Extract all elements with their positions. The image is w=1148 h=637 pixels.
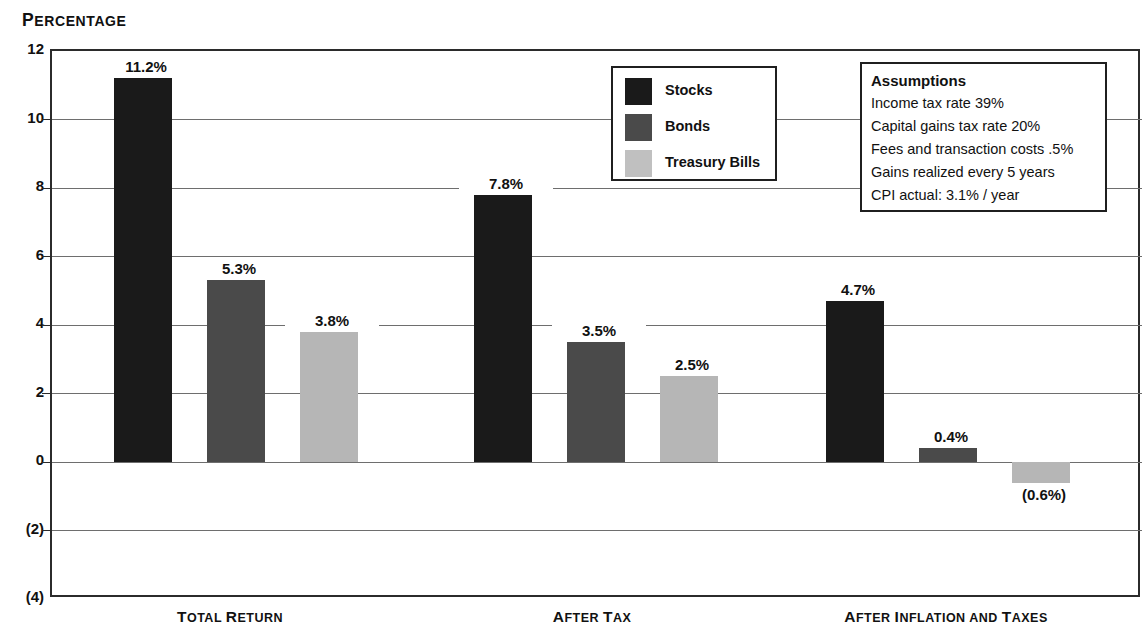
legend-label: Bonds [665,118,710,134]
bar-treasury-bills-3 [1012,462,1070,483]
y-axis-tick [42,393,51,394]
bar-value-label: (0.6%) [997,486,1091,503]
bar-stocks-3 [826,301,884,462]
assumptions-lines: Income tax rate 39%Capital gains tax rat… [871,92,1105,207]
legend-label: Treasury Bills [665,154,760,170]
gridline [52,530,1142,531]
category-label-3: AFTER INFLATION AND TAXES [746,608,1146,626]
chart-axis-title: PERCENTAGE [22,10,127,31]
bar-value-label: 5.3% [192,260,286,277]
axis-title-initial: P [22,10,34,30]
y-axis-tick-label: (4) [0,588,44,605]
y-axis-tick-label: 4 [0,314,44,331]
bar-value-label: 7.8% [459,175,553,192]
assumption-line-4: Gains realized every 5 years [871,161,1105,184]
bar-value-label: 11.2% [99,58,193,75]
axis-title-rest: ERCENTAGE [34,13,126,29]
y-axis-tick-label: 0 [0,451,44,468]
bar-bonds-1 [207,280,265,462]
bar-value-label: 3.5% [552,322,646,339]
legend-swatch-icon [625,150,652,177]
chart-legend: StocksBondsTreasury Bills [611,66,777,181]
assumption-line-2: Capital gains tax rate 20% [871,115,1105,138]
assumptions-box: Assumptions Income tax rate 39%Capital g… [860,62,1107,212]
bar-value-label: 2.5% [645,356,739,373]
bar-value-label: 3.8% [285,312,379,329]
y-axis-tick [42,325,51,326]
bar-bonds-2 [567,342,625,462]
legend-label: Stocks [665,82,713,98]
y-axis-tick-label: 10 [0,109,44,126]
y-axis-tick [42,119,51,120]
bar-value-label: 0.4% [904,428,998,445]
bar-treasury-bills-1 [300,332,358,462]
bar-stocks-2 [474,195,532,462]
bar-value-label: 4.7% [811,281,905,298]
assumption-line-1: Income tax rate 39% [871,92,1105,115]
y-axis-tick-label: 12 [0,40,44,57]
legend-swatch-icon [625,78,652,105]
assumption-line-5: CPI actual: 3.1% / year [871,184,1105,207]
y-axis-tick [42,256,51,257]
legend-swatch-icon [625,114,652,141]
assumptions-title: Assumptions [871,70,1105,91]
category-label-2: AFTER TAX [392,608,792,626]
assumption-line-3: Fees and transaction costs .5% [871,138,1105,161]
gridline [52,256,1142,257]
y-axis-tick-label: 2 [0,383,44,400]
category-label-1: TOTAL RETURN [30,608,430,626]
y-axis-tick-label: (2) [0,520,44,537]
y-axis-tick-label: 6 [0,246,44,263]
bar-stocks-1 [114,78,172,462]
bar-bonds-3 [919,448,977,462]
y-axis-tick-label: 8 [0,177,44,194]
y-axis-tick [42,530,51,531]
bar-treasury-bills-2 [660,376,718,462]
y-axis-tick [42,188,51,189]
bar-chart: PERCENTAGE 121086420(2)(4) 11.2%5.3%3.8%… [0,0,1148,637]
y-axis-tick [42,462,51,463]
